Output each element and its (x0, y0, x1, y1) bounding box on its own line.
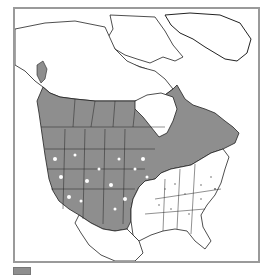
map-legend (13, 266, 35, 275)
map-frame (13, 7, 260, 263)
legend-swatch-range (13, 267, 31, 275)
north-america-range-map (15, 9, 258, 261)
